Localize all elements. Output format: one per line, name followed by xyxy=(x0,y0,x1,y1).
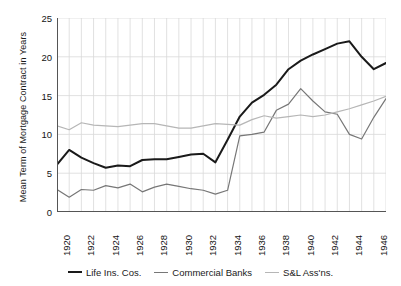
chart-svg xyxy=(57,18,386,212)
x-tick-label: 1926 xyxy=(134,235,145,256)
chart-figure: Mean Term of Mortgage Contract in Years … xyxy=(0,0,401,286)
legend-line-swatch xyxy=(265,272,279,273)
x-tick-label: 1930 xyxy=(183,235,194,256)
x-tick-label: 1932 xyxy=(207,235,218,256)
x-tick-label: 1920 xyxy=(61,235,72,256)
x-tick-label: 1936 xyxy=(256,235,267,256)
y-tick-label: 10 xyxy=(41,129,52,140)
x-tick-label: 1942 xyxy=(329,235,340,256)
x-tick-label: 1924 xyxy=(110,235,121,256)
legend-item[interactable]: S&L Ass'ns. xyxy=(265,267,333,278)
legend-item[interactable]: Commercial Banks xyxy=(154,267,252,278)
y-axis-label: Mean Term of Mortgage Contract in Years xyxy=(18,12,28,222)
x-tick-label: 1928 xyxy=(158,235,169,256)
y-tick-label: 0 xyxy=(47,207,52,218)
y-tick-label: 20 xyxy=(41,51,52,62)
x-tick-label: 1938 xyxy=(280,235,291,256)
x-tick-label: 1934 xyxy=(232,235,243,256)
x-axis-tick-labels: 1920192219241926192819301932193419361938… xyxy=(57,216,386,262)
legend-label: S&L Ass'ns. xyxy=(283,267,333,278)
vertical-gridlines xyxy=(57,18,386,212)
x-tick-label: 1944 xyxy=(353,235,364,256)
y-tick-label: 15 xyxy=(41,90,52,101)
y-tick-label: 5 xyxy=(47,168,52,179)
legend-label: Commercial Banks xyxy=(172,267,252,278)
legend-line-swatch xyxy=(68,271,82,273)
y-axis-tick-labels: 0510152025 xyxy=(30,18,52,212)
legend-item[interactable]: Life Ins. Cos. xyxy=(68,267,141,278)
x-tick-label: 1922 xyxy=(85,235,96,256)
legend-label: Life Ins. Cos. xyxy=(86,267,141,278)
y-tick-label: 25 xyxy=(41,13,52,24)
x-tick-label: 1946 xyxy=(378,235,389,256)
axis-spines xyxy=(57,18,386,212)
data-series-layer xyxy=(57,41,386,197)
plot-area xyxy=(57,18,386,212)
x-tick-label: 1940 xyxy=(305,235,316,256)
chart-legend: Life Ins. Cos.Commercial BanksS&L Ass'ns… xyxy=(0,262,401,282)
legend-line-swatch xyxy=(154,272,168,273)
